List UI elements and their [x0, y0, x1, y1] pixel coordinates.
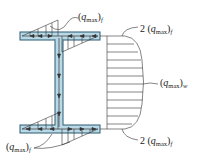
- i-beam-section: [20, 32, 100, 133]
- web-distribution: [100, 36, 144, 129]
- label-top-flange-max: (qmax)f: [78, 12, 103, 24]
- label-web-max: (qmax)w: [160, 78, 187, 90]
- label-top-right-junction: 2 (qmax)f: [140, 24, 172, 36]
- label-bottom-right-junction: 2 (qmax)f: [140, 136, 172, 148]
- label-bottom-flange-max: (qmax)f: [6, 142, 31, 154]
